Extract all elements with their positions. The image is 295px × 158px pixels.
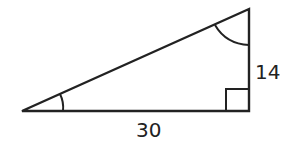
right-angle-marker: [226, 89, 249, 111]
vertical-leg-label: 14: [255, 60, 280, 84]
horizontal-leg-label: 30: [136, 118, 161, 142]
left-angle-arc: [60, 94, 63, 111]
triangle-outline: [22, 9, 249, 111]
top-angle-arc: [215, 25, 249, 45]
triangle-diagram: 14 30: [0, 0, 295, 158]
